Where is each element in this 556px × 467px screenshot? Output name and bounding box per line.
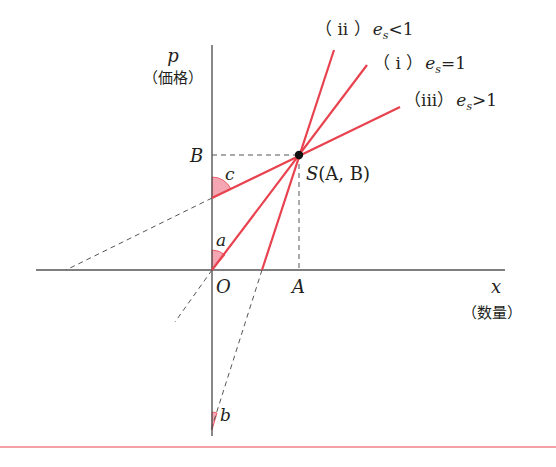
angle-b-label: b (220, 405, 231, 425)
origin-label: O (216, 276, 231, 297)
label-line-i: （ i ）es=1 (373, 53, 466, 76)
label-line-ii: （ ii ）es<1 (315, 19, 413, 42)
extension-i-dashed (175, 270, 212, 322)
angle-a-label: a (216, 230, 226, 250)
x-axis-label: （数量） (462, 304, 522, 322)
x-axis-symbol: x (491, 276, 501, 297)
B-label: B (189, 145, 203, 166)
point-S-label: S(A, B) (306, 163, 370, 184)
A-label: A (290, 276, 305, 297)
extension-iii-dashed (66, 198, 212, 270)
y-axis-label: （価格） (143, 69, 203, 87)
y-axis-symbol: p (167, 45, 179, 66)
point-S-marker (295, 151, 303, 159)
label-line-iii: （iii）es>1 (404, 90, 497, 113)
supply-line-iii (212, 107, 400, 198)
elasticity-diagram: p （価格） x （数量） O B A S(A, B) c a b （ ii ）… (0, 0, 556, 467)
angle-c-label: c (225, 164, 235, 184)
supply-line-ii (262, 50, 334, 270)
angle-b-wedge (212, 412, 217, 430)
